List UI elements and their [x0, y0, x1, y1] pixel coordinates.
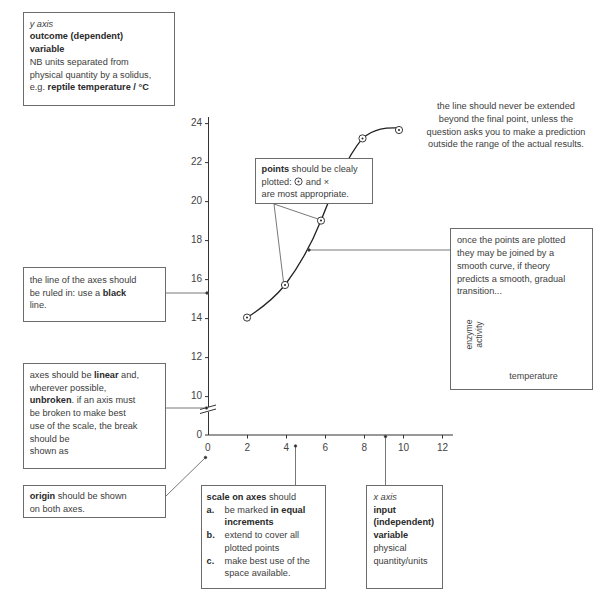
- y-tick-label: 18: [191, 234, 202, 245]
- points-note: points should be clealy plotted: and × a…: [255, 158, 373, 204]
- x-axis-note-title: x axis: [373, 491, 436, 504]
- data-points: [243, 126, 402, 321]
- x-tick-label: 6: [323, 442, 329, 453]
- scale-item-text: extend to cover all plotted points: [225, 529, 320, 554]
- y-tick-label: 12: [191, 351, 202, 362]
- data-point-icon: [281, 281, 288, 288]
- x-axis-note-line: variable: [373, 529, 436, 542]
- scale-note: scale on axes should a. be marked in equ…: [201, 485, 326, 589]
- data-point-icon: [395, 126, 402, 133]
- y-tick-label: 20: [191, 195, 202, 206]
- x-tick-label: 2: [245, 442, 251, 453]
- y-axis-note-prefix: e.g.: [30, 82, 48, 92]
- x-axis-note-line: input: [373, 504, 436, 517]
- scale-item-label: b.: [207, 529, 225, 554]
- x-axis-note-line: physical: [373, 542, 436, 555]
- y-tick-label: 14: [191, 312, 202, 323]
- linear-note-line: should be: [30, 433, 160, 446]
- y-axis-note-example: reptile temperature / °C: [48, 82, 149, 92]
- x-tick-label: 10: [398, 442, 409, 453]
- ruled-axes-note: the line of the axes should be ruled in:…: [23, 267, 167, 322]
- points-note-bold: points: [262, 164, 290, 174]
- linear-note-text: axes should be: [30, 370, 94, 380]
- y-tick-label: 0: [196, 429, 202, 440]
- extend-note-line: beyond the final point, unless the: [406, 113, 606, 126]
- linear-note-line: axes should be linear and,: [30, 369, 160, 382]
- x-tick-label: 8: [362, 442, 368, 453]
- y-tick-label: 16: [191, 273, 202, 284]
- linear-note-line: unbroken. if an axis must: [30, 394, 160, 407]
- y-tick-label: 24: [191, 117, 202, 128]
- points-note-line: are most appropriate.: [262, 188, 366, 201]
- data-point-icon: [243, 314, 250, 321]
- x-axis-note-line: quantity/units: [373, 555, 436, 568]
- y-axis-note-line: variable: [30, 43, 168, 56]
- origin-note-line: on both axes.: [30, 503, 160, 516]
- origin-note-line: origin should be shown: [30, 490, 160, 503]
- points-note-line: plotted: and ×: [262, 176, 366, 189]
- y-axis-note-line: NB units separated from: [30, 56, 168, 69]
- y-axis-note-line: e.g. reptile temperature / °C: [30, 81, 168, 94]
- points-note-text: plotted:: [262, 177, 295, 187]
- linear-note-bold: unbroken: [30, 395, 72, 405]
- linear-note-line: use of the scale, the break: [30, 420, 160, 433]
- smooth-note-line: they may be joined by a: [457, 247, 586, 260]
- y-axis-ticks: [205, 124, 209, 435]
- circled-dot-icon: [294, 177, 303, 186]
- x-axis-ticks: [248, 435, 443, 439]
- extend-note-line: outside the range of the actual results.: [406, 138, 606, 151]
- linear-axes-note: axes should be linear and, wherever poss…: [23, 363, 167, 469]
- linear-note-line: wherever possible,: [30, 382, 160, 395]
- extend-note-line: question asks you to make a prediction: [406, 126, 606, 139]
- linear-note-text: and,: [119, 370, 139, 380]
- scale-note-bold: scale on axes: [207, 492, 267, 502]
- extend-note-line: the line should never be extended: [406, 100, 606, 113]
- y-tick-label: 10: [191, 390, 202, 401]
- scale-note-text: should: [266, 492, 296, 502]
- extend-note: the line should never be extended beyond…: [406, 100, 606, 151]
- scale-note-title: scale on axes should: [207, 491, 320, 504]
- scale-item-text: be marked in equal increments: [225, 504, 320, 529]
- y-axis-note-line: outcome (dependent): [30, 30, 168, 43]
- origin-note-bold: origin: [30, 491, 56, 501]
- points-note-line: points should be clealy: [262, 163, 366, 176]
- y-tick-label: 22: [191, 156, 202, 167]
- x-tick-label: 12: [437, 442, 448, 453]
- points-note-text: and ×: [303, 177, 329, 187]
- scale-note-item: b. extend to cover all plotted points: [207, 529, 320, 554]
- scale-item-pre: be marked: [225, 505, 271, 515]
- ruled-note-line: line.: [30, 299, 160, 312]
- y-axis-note-line: physical quantity by a solidus,: [30, 69, 168, 82]
- inset-y-label: enzyme activity: [465, 310, 484, 360]
- points-note-text: should be clealy: [289, 164, 357, 174]
- y-axis-note: y axis outcome (dependent) variable NB u…: [23, 12, 175, 107]
- origin-note: origin should be shown on both axes.: [23, 485, 167, 518]
- ruled-note-bold: black: [103, 288, 127, 298]
- smooth-note-line: predicts a smooth, gradual: [457, 273, 586, 286]
- ruled-note-line: be ruled in: use a black: [30, 287, 160, 300]
- smooth-note-line: once the points are plotted: [457, 234, 586, 247]
- scale-item-label: a.: [207, 504, 225, 529]
- smooth-note-line: transition...: [457, 285, 586, 298]
- scale-item-label: c.: [207, 555, 225, 580]
- ruled-note-line: the line of the axes should: [30, 274, 160, 287]
- x-tick-label: 0: [205, 442, 211, 453]
- origin-note-text: should be shown: [55, 491, 127, 501]
- scale-item-text: make best use of the space available.: [225, 555, 320, 580]
- linear-note-bold: linear: [94, 370, 119, 380]
- smooth-note-line: smooth curve, if theory: [457, 260, 586, 273]
- scale-note-item: c. make best use of the space available.: [207, 555, 320, 580]
- x-axis-note: x axis input (independent) variable phys…: [366, 485, 443, 589]
- ruled-note-text: be ruled in: use a: [30, 288, 103, 298]
- inset-x-label: temperature: [480, 371, 587, 381]
- inset-y-label-line: activity: [474, 310, 484, 360]
- y-axis-note-title: y axis: [30, 18, 168, 31]
- scale-note-item: a. be marked in equal increments: [207, 504, 320, 529]
- linear-note-line: shown as: [30, 445, 160, 458]
- data-point-icon: [317, 217, 324, 224]
- x-axis-note-line: (independent): [373, 516, 436, 529]
- x-tick-label: 4: [284, 442, 290, 453]
- data-point-icon: [359, 135, 366, 142]
- linear-note-line: be broken to make best: [30, 407, 160, 420]
- linear-note-text: . if an axis must: [72, 395, 136, 405]
